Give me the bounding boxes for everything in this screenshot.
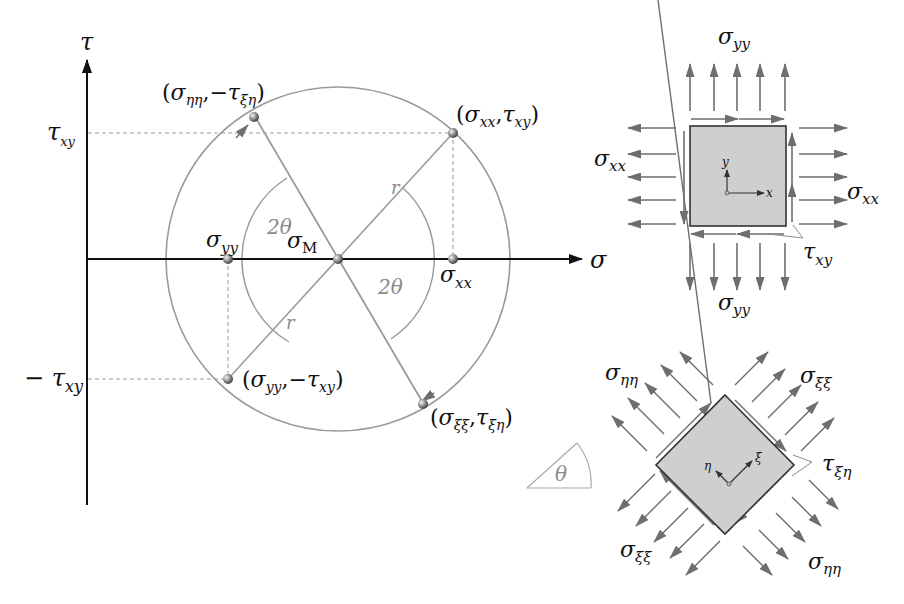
rotation-arrow-icon (236, 125, 248, 138)
label-point-xixi: (σξξ,τξη) (430, 405, 513, 433)
theta-indicator: θ (527, 443, 591, 488)
element-diamond (656, 395, 794, 534)
label-r-upper: r (391, 177, 401, 198)
label-point-xx-xy: (σxx,τxy) (456, 102, 539, 130)
label-sigma-xx-right: σxx (847, 179, 879, 208)
label-sigma-xixi-bottom: σξξ (620, 537, 652, 566)
tick-tau-xy: τxy (47, 118, 76, 149)
label-sigma-yy-bottom: σyy (718, 290, 751, 319)
label-sigma-xx: σxx (440, 262, 472, 292)
stress-element-rotated: ξ η σηη σξξ σξξ σηη τξη (605, 0, 851, 578)
dashed-guides (88, 133, 453, 379)
axis-x-label: x (766, 186, 773, 200)
point-yy-neg-xy[interactable] (223, 374, 233, 384)
label-tau-xieta: τξη (822, 451, 851, 481)
stress-element-xy: y x σyy σyy σxx σxx τxy (594, 24, 879, 319)
label-sigma-xixi-top: σξξ (800, 363, 832, 392)
label-point-etaeta: (σηη,−τξη) (162, 80, 265, 108)
label-sigma-yy: σyy (206, 227, 239, 257)
circle-points (223, 112, 458, 409)
label-r-lower: r (286, 312, 296, 333)
label-sigma-etaeta-top: σηη (605, 360, 638, 389)
point-xixi[interactable] (418, 399, 428, 409)
element-square (690, 126, 786, 226)
tick-neg-tau-xy: − τxy (24, 364, 84, 396)
label-2theta-left: 2θ (266, 215, 292, 239)
point-xx-xy[interactable] (448, 128, 458, 138)
sigma-axis-label: σ (590, 246, 607, 274)
label-sigma-xx-left: σxx (594, 146, 626, 175)
label-point-yy-neg-xy: (σyy,−τxy) (242, 367, 343, 395)
tau-axis-label: τ (80, 28, 94, 56)
angle-arc-right (391, 187, 434, 339)
point-sigma-m[interactable] (333, 254, 343, 264)
theta-label: θ (555, 462, 567, 486)
axis-eta-label: η (704, 459, 712, 473)
label-tau-xy: τxy (803, 239, 833, 269)
mohr-circle-plot: τ σ τxy − τxy σyy σxx σM 2θ 2θ r r (σηη,… (24, 28, 607, 505)
mohr-diagram: τ σ τxy − τxy σyy σxx σM 2θ 2θ r r (σηη,… (0, 0, 904, 604)
label-sigma-etaeta-bottom: σηη (808, 549, 841, 578)
axis-y-label: y (721, 155, 729, 169)
point-etaeta[interactable] (249, 112, 259, 122)
label-sigma-yy-top: σyy (718, 24, 751, 53)
label-2theta-right: 2θ (377, 275, 403, 299)
